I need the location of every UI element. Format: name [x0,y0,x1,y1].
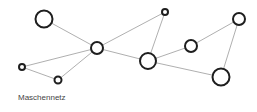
network-node-circle-icon [36,11,53,28]
network-node-circle-icon [213,69,230,86]
network-edge [22,67,58,80]
network-node-circle-icon [162,9,168,15]
network-node-circle-icon [185,40,197,52]
network-edges [22,12,239,80]
network-node-circle-icon [55,77,62,84]
network-node-circle-icon [91,42,103,54]
diagram-caption: Maschennetz [18,93,66,103]
network-node-circle-icon [233,13,245,25]
network-node-circle-icon [140,53,156,69]
network-nodes [19,9,245,86]
network-edge [148,61,221,77]
network-node-circle-icon [19,64,25,70]
